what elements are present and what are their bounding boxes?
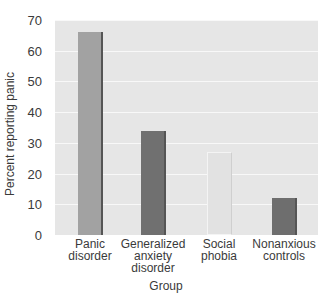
y-tick-label: 0 — [12, 229, 42, 242]
x-axis-label: Group — [126, 279, 206, 293]
bar — [272, 198, 297, 235]
plot-area — [55, 20, 318, 235]
bar — [141, 131, 166, 235]
y-tick-label: 70 — [12, 14, 42, 27]
x-tick-label: Nonanxious controls — [244, 238, 324, 262]
gridline — [55, 20, 318, 21]
bar — [78, 32, 103, 235]
bar — [207, 152, 232, 235]
y-tick-label: 60 — [12, 45, 42, 58]
y-axis-label: Percent reporting panic — [3, 64, 17, 204]
